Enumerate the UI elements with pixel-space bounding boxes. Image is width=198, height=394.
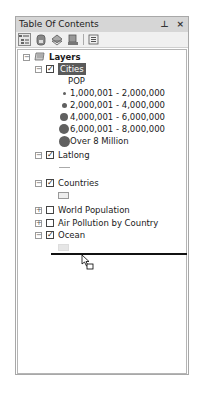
legend-class: 6,000,001 - 8,000,000: [58, 123, 165, 135]
list-by-selection-button[interactable]: [66, 33, 79, 46]
table-of-contents-window: Table Of Contents ⊥ ×: [15, 16, 189, 375]
polygon-symbol-icon: [58, 244, 69, 251]
point-symbol-icon: [59, 124, 69, 134]
list-by-drawing-order-button[interactable]: [18, 33, 31, 46]
layer-name[interactable]: Latlong: [58, 149, 90, 161]
drag-cursor-icon: [81, 254, 95, 270]
point-symbol-icon: [62, 103, 67, 108]
collapse-icon[interactable]: −: [35, 232, 42, 239]
legend-class-label: 4,000,001 - 6,000,000: [70, 111, 165, 123]
legend-class-label: 6,000,001 - 8,000,000: [70, 123, 165, 135]
layers-label: Layers: [49, 51, 80, 63]
toc-toolbar: [16, 32, 188, 48]
layer-countries[interactable]: − ✓ Countries: [35, 177, 99, 189]
window-title: Table Of Contents: [19, 19, 99, 29]
list-by-source-button[interactable]: [34, 33, 47, 46]
layer-name[interactable]: Cities: [58, 63, 86, 75]
pin-icon[interactable]: ⊥: [160, 19, 168, 29]
source-icon: [36, 34, 46, 46]
point-symbol-icon: [59, 136, 70, 147]
layer-cities[interactable]: − ✓ Cities: [35, 63, 86, 75]
collapse-icon[interactable]: −: [35, 180, 42, 187]
expand-icon[interactable]: +: [35, 220, 42, 227]
legend-class: 2,000,001 - 4,000,000: [58, 99, 165, 111]
collapse-icon[interactable]: −: [35, 152, 42, 159]
layer-name[interactable]: Air Pollution by Country: [58, 217, 158, 229]
list-by-visibility-button[interactable]: [50, 33, 63, 46]
layer-name[interactable]: World Population: [58, 204, 130, 216]
legend-class-label: Over 8 Million: [70, 135, 129, 147]
layer-latlong[interactable]: − ✓ Latlong: [35, 149, 90, 161]
options-icon: [88, 34, 99, 45]
layer-ocean[interactable]: − ✓ Ocean: [35, 229, 85, 241]
point-symbol-icon: [60, 113, 68, 121]
layers-root[interactable]: − Layers: [23, 51, 80, 63]
legend-field-label: POP: [68, 75, 85, 87]
legend-class: 4,000,001 - 6,000,000: [58, 111, 165, 123]
layer-tree: − Layers − ✓ Cities POP 1,000,001 - 2,00…: [17, 49, 187, 374]
point-symbol-icon: [63, 92, 66, 95]
polygon-symbol-icon: [58, 192, 69, 199]
layer-air-pollution[interactable]: + Air Pollution by Country: [35, 217, 158, 229]
line-symbol-icon: [59, 167, 70, 168]
legend-class-label: 1,000,001 - 2,000,000: [70, 87, 165, 99]
layer-name[interactable]: Countries: [58, 177, 99, 189]
title-bar: Table Of Contents ⊥ ×: [16, 17, 188, 32]
layer-visibility-checkbox[interactable]: ✓: [46, 179, 54, 187]
legend-class: Over 8 Million: [58, 135, 129, 147]
layer-visibility-checkbox[interactable]: [46, 206, 54, 214]
visibility-icon: [51, 34, 63, 46]
layer-visibility-checkbox[interactable]: ✓: [46, 151, 54, 159]
expand-icon[interactable]: +: [35, 207, 42, 214]
toolbar-separator: [83, 34, 84, 45]
drop-indicator-line: [51, 253, 187, 255]
layer-world-population[interactable]: + World Population: [35, 204, 130, 216]
legend-class: 1,000,001 - 2,000,000: [58, 87, 165, 99]
options-button[interactable]: [87, 33, 100, 46]
legend-class-label: 2,000,001 - 4,000,000: [70, 99, 165, 111]
collapse-icon[interactable]: −: [35, 66, 42, 73]
layer-visibility-checkbox[interactable]: ✓: [46, 65, 54, 73]
layer-visibility-checkbox[interactable]: [46, 219, 54, 227]
selection-icon: [67, 34, 79, 46]
layer-name[interactable]: Ocean: [58, 229, 85, 241]
drawing-order-icon: [19, 34, 30, 45]
collapse-icon[interactable]: −: [23, 54, 30, 61]
layers-icon: [34, 52, 45, 62]
close-icon[interactable]: ×: [176, 19, 184, 29]
layer-visibility-checkbox[interactable]: ✓: [46, 231, 54, 239]
legend-field: POP: [68, 75, 85, 87]
